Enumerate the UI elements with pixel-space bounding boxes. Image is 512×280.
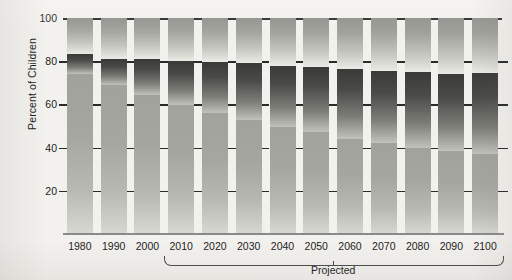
gridline-tick — [329, 61, 337, 63]
gridline-tick — [431, 148, 439, 150]
gridline-tick — [397, 61, 405, 63]
segment-middle — [67, 54, 93, 75]
segment-top — [472, 18, 498, 73]
gridline-tick — [464, 191, 472, 193]
gridline-tick — [329, 191, 337, 193]
segment-bottom — [168, 105, 194, 234]
gridline-tick — [397, 148, 405, 150]
y-tick-label: 40 — [45, 142, 57, 154]
gridline-tick — [500, 104, 508, 106]
gridline-tick — [160, 104, 168, 106]
gridline-tick — [431, 104, 439, 106]
segment-bottom — [371, 143, 397, 234]
projected-label: Projected — [273, 264, 393, 276]
gridline-tick — [93, 148, 101, 150]
gridline-tick — [127, 104, 135, 106]
gridline-tick — [464, 148, 472, 150]
bar-1980[interactable] — [67, 18, 93, 234]
plot-area — [63, 18, 502, 234]
gridline-tick — [228, 104, 236, 106]
segment-top — [371, 18, 397, 71]
y-axis-tick-labels: 20406080100 — [25, 18, 57, 234]
segment-top — [168, 18, 194, 61]
segment-bottom — [472, 154, 498, 234]
gridline-tick — [194, 148, 202, 150]
segment-middle — [202, 62, 228, 113]
gridline-tick — [194, 191, 202, 193]
bar-2060[interactable] — [337, 18, 363, 234]
bar-1990[interactable] — [101, 18, 127, 234]
gridline-tick — [296, 104, 304, 106]
segment-top — [67, 18, 93, 54]
bar-2100[interactable] — [472, 18, 498, 234]
gridline-tick — [397, 104, 405, 106]
segment-bottom — [270, 127, 296, 234]
gridline-tick — [363, 104, 371, 106]
gridline-tick — [329, 104, 337, 106]
gridline-tick — [194, 104, 202, 106]
segment-middle — [405, 72, 431, 148]
gridline-tick — [296, 191, 304, 193]
bar-2050[interactable] — [303, 18, 329, 234]
gridline-tick — [228, 61, 236, 63]
gridline-tick — [127, 148, 135, 150]
gridline-tick — [127, 191, 135, 193]
y-tick-label: 20 — [45, 185, 57, 197]
bar-2070[interactable] — [371, 18, 397, 234]
segment-middle — [472, 73, 498, 154]
segment-top — [270, 18, 296, 66]
bar-2030[interactable] — [236, 18, 262, 234]
bar-2040[interactable] — [270, 18, 296, 234]
chart-container: Percent of Children 20406080100 19801990… — [0, 0, 512, 280]
gridline-tick — [363, 61, 371, 63]
gridline-tick — [363, 191, 371, 193]
segment-bottom — [405, 148, 431, 234]
x-axis-line — [63, 233, 504, 235]
segment-bottom — [101, 85, 127, 234]
segment-bottom — [303, 132, 329, 234]
segment-middle — [236, 63, 262, 119]
gridline-tick — [127, 61, 135, 63]
segment-middle — [101, 59, 127, 85]
x-tick-label-2100: 2100 — [465, 240, 505, 252]
gridline-tick — [262, 191, 270, 193]
gridline-tick — [397, 191, 405, 193]
segment-top — [405, 18, 431, 72]
bar-2010[interactable] — [168, 18, 194, 234]
segment-bottom — [438, 151, 464, 234]
gridline-tick — [160, 148, 168, 150]
segment-bottom — [134, 95, 160, 234]
gridline-tick — [228, 148, 236, 150]
gridline-tick — [464, 61, 472, 63]
segment-middle — [337, 69, 363, 139]
bar-2000[interactable] — [134, 18, 160, 234]
gridline-tick — [93, 104, 101, 106]
segment-bottom — [67, 74, 93, 234]
gridline-tick — [431, 61, 439, 63]
gridline-tick — [296, 61, 304, 63]
segment-top — [438, 18, 464, 74]
segment-middle — [303, 67, 329, 133]
segment-middle — [270, 66, 296, 128]
gridline-tick — [431, 191, 439, 193]
gridline-tick — [329, 148, 337, 150]
segment-top — [303, 18, 329, 67]
gridline-tick — [500, 61, 508, 63]
gridline-tick — [262, 61, 270, 63]
bar-2080[interactable] — [405, 18, 431, 234]
gridline-tick — [93, 191, 101, 193]
segment-middle — [438, 74, 464, 151]
segment-middle — [371, 71, 397, 143]
gridline-tick — [93, 61, 101, 63]
segment-bottom — [236, 120, 262, 234]
gridline-tick — [363, 148, 371, 150]
segment-top — [337, 18, 363, 69]
bar-2090[interactable] — [438, 18, 464, 234]
y-tick-label: 100 — [39, 12, 57, 24]
segment-top — [134, 18, 160, 59]
segment-bottom — [202, 113, 228, 234]
gridline-tick — [262, 104, 270, 106]
bar-2020[interactable] — [202, 18, 228, 234]
segment-middle — [134, 59, 160, 95]
gridline-tick — [194, 61, 202, 63]
